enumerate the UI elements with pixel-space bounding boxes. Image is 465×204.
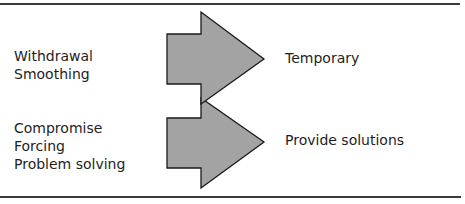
- arrow-right-icon: [167, 12, 264, 104]
- row-2-outcome: Provide solutions: [285, 131, 404, 149]
- row-1-outcome: Temporary: [285, 49, 359, 67]
- bottom-rule: [0, 196, 461, 198]
- arrows-graphic: [0, 0, 465, 204]
- arrow-right-icon: [167, 98, 264, 188]
